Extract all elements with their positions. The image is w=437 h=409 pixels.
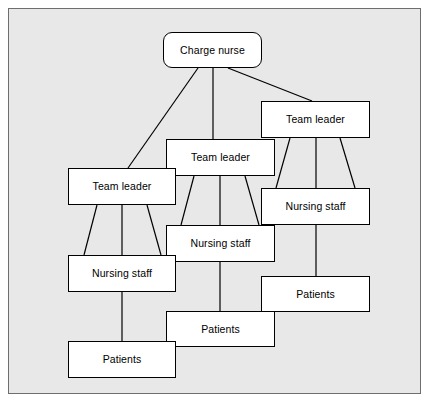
connector-team-leader-left-to-nursing-staff-left <box>147 205 161 255</box>
node-label-nursing-staff-right: Nursing staff <box>285 201 345 212</box>
node-charge-nurse[interactable]: Charge nurse <box>163 32 262 68</box>
node-label-patients-right: Patients <box>296 289 335 300</box>
organizational-chart-diagram: Charge nurseTeam leaderTeam leaderTeam l… <box>0 0 437 409</box>
node-label-patients-left: Patients <box>103 354 142 365</box>
node-label-nursing-staff-left: Nursing staff <box>92 268 152 279</box>
node-label-charge-nurse: Charge nurse <box>180 45 245 56</box>
node-label-patients-middle: Patients <box>201 324 240 335</box>
node-team-leader-right[interactable]: Team leader <box>261 101 370 138</box>
connector-team-leader-right-to-nursing-staff-right <box>276 138 290 188</box>
node-label-team-leader-middle: Team leader <box>191 152 250 163</box>
node-nursing-staff-right[interactable]: Nursing staff <box>261 188 370 225</box>
connector-team-leader-middle-to-nursing-staff-middle <box>181 176 194 225</box>
node-patients-left[interactable]: Patients <box>68 341 176 378</box>
node-nursing-staff-middle[interactable]: Nursing staff <box>166 225 275 262</box>
node-team-leader-middle[interactable]: Team leader <box>166 139 275 176</box>
node-team-leader-left[interactable]: Team leader <box>68 168 176 205</box>
connector-charge-nurse-to-team-leader-right <box>228 68 312 101</box>
connector-team-leader-right-to-nursing-staff-right <box>340 138 355 188</box>
node-label-nursing-staff-middle: Nursing staff <box>190 238 250 249</box>
node-label-team-leader-right: Team leader <box>286 114 345 125</box>
node-patients-middle[interactable]: Patients <box>166 311 275 347</box>
node-patients-right[interactable]: Patients <box>261 276 370 312</box>
node-nursing-staff-left[interactable]: Nursing staff <box>68 255 176 292</box>
connector-team-leader-left-to-nursing-staff-left <box>84 205 97 255</box>
node-label-team-leader-left: Team leader <box>93 181 152 192</box>
connector-team-leader-middle-to-nursing-staff-middle <box>245 176 259 225</box>
